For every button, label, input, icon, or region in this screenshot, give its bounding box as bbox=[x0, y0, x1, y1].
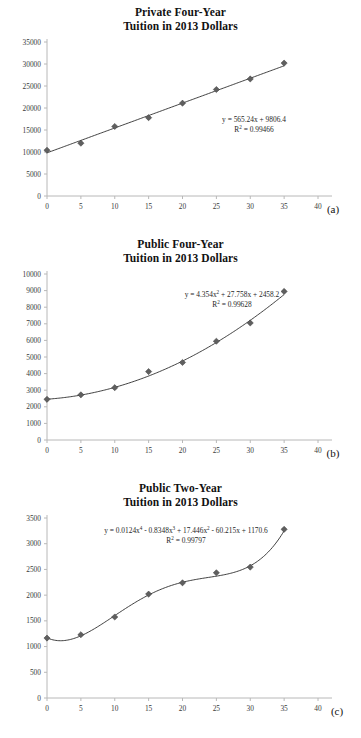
x-tick-label-b-8: 40 bbox=[314, 446, 322, 455]
y-tick-label-c-2: 1000 bbox=[26, 642, 41, 651]
y-tick-label-c-1: 500 bbox=[30, 668, 41, 677]
plot-area-b: 0100020003000400050006000700080009000100… bbox=[0, 265, 361, 473]
chart-title-b: Public Four-Year Tuition in 2013 Dollars bbox=[0, 232, 361, 265]
data-point-a-6 bbox=[247, 76, 253, 82]
y-tick-label-a-0: 0 bbox=[37, 192, 41, 201]
x-tick-label-c-7: 35 bbox=[280, 704, 288, 713]
y-tick-label-a-3: 15000 bbox=[23, 126, 42, 135]
x-tick-label-b-0: 0 bbox=[45, 446, 49, 455]
x-tick-label-a-6: 30 bbox=[247, 202, 255, 211]
y-tick-label-b-5: 5000 bbox=[26, 353, 41, 362]
y-tick-label-b-0: 0 bbox=[37, 436, 41, 445]
y-tick-label-c-3: 1500 bbox=[26, 616, 41, 625]
x-tick-label-b-4: 20 bbox=[179, 446, 187, 455]
r-squared-label-c: R2 = 0.99797 bbox=[166, 535, 206, 545]
data-point-a-3 bbox=[146, 115, 152, 121]
x-tick-label-c-8: 40 bbox=[314, 704, 322, 713]
x-tick-label-a-4: 20 bbox=[179, 202, 187, 211]
data-point-c-5 bbox=[213, 570, 219, 576]
x-tick-label-c-2: 10 bbox=[111, 704, 119, 713]
plot-area-a: 0500010000150002000025000300003500005101… bbox=[0, 33, 361, 229]
y-tick-label-b-2: 2000 bbox=[26, 402, 41, 411]
chart-title-c: Public Two-Year Tuition in 2013 Dollars bbox=[0, 476, 361, 509]
chart-title-a: Private Four-Year Tuition in 2013 Dollar… bbox=[0, 0, 361, 33]
x-tick-label-b-1: 5 bbox=[79, 446, 83, 455]
x-tick-label-b-3: 15 bbox=[145, 446, 153, 455]
x-tick-label-b-6: 30 bbox=[247, 446, 255, 455]
y-tick-label-a-4: 20000 bbox=[23, 104, 42, 113]
chart-title-b-line2: Tuition in 2013 Dollars bbox=[0, 252, 361, 266]
y-tick-label-b-1: 1000 bbox=[26, 419, 41, 428]
y-tick-label-c-6: 3000 bbox=[26, 539, 41, 548]
data-point-b-2 bbox=[112, 385, 118, 391]
chart-title-c-line2: Tuition in 2013 Dollars bbox=[0, 496, 361, 510]
y-tick-label-c-4: 2000 bbox=[26, 591, 41, 600]
data-point-a-7 bbox=[281, 60, 287, 66]
y-tick-label-a-5: 25000 bbox=[23, 82, 42, 91]
data-point-b-1 bbox=[78, 392, 84, 398]
y-tick-label-b-9: 9000 bbox=[26, 286, 41, 295]
x-tick-label-c-4: 20 bbox=[179, 704, 187, 713]
data-point-a-4 bbox=[179, 100, 185, 106]
x-tick-label-a-1: 5 bbox=[79, 202, 83, 211]
data-point-c-7 bbox=[281, 526, 287, 532]
data-point-c-0 bbox=[44, 635, 50, 641]
chart-title-b-line1: Public Four-Year bbox=[0, 238, 361, 252]
plot-area-c: 0500100015002000250030003500051015202530… bbox=[0, 509, 361, 731]
panel-letter-b: (b) bbox=[327, 447, 340, 460]
y-tick-label-b-10: 10000 bbox=[23, 270, 42, 279]
chart-panel-a: Private Four-Year Tuition in 2013 Dollar… bbox=[0, 0, 361, 238]
x-tick-label-c-3: 15 bbox=[145, 704, 153, 713]
y-tick-label-a-2: 10000 bbox=[23, 148, 42, 157]
chart-title-a-line1: Private Four-Year bbox=[0, 6, 361, 20]
y-tick-label-b-6: 6000 bbox=[26, 336, 41, 345]
x-tick-label-b-5: 25 bbox=[213, 446, 221, 455]
x-tick-label-a-2: 10 bbox=[111, 202, 119, 211]
x-tick-label-c-0: 0 bbox=[45, 704, 49, 713]
chart-panel-b: Public Four-Year Tuition in 2013 Dollars… bbox=[0, 232, 361, 480]
data-point-b-7 bbox=[281, 288, 287, 294]
x-tick-label-c-5: 25 bbox=[213, 704, 221, 713]
data-point-b-3 bbox=[146, 369, 152, 375]
y-tick-label-a-1: 5000 bbox=[26, 170, 41, 179]
y-tick-label-a-7: 35000 bbox=[23, 38, 42, 47]
trendline-b bbox=[47, 295, 284, 400]
r-squared-label-b: R2 = 0.99628 bbox=[212, 299, 252, 309]
r-squared-label-a: R2 = 0.99466 bbox=[234, 124, 274, 134]
x-tick-label-a-5: 25 bbox=[213, 202, 221, 211]
data-point-b-6 bbox=[247, 320, 253, 326]
x-tick-label-c-1: 5 bbox=[79, 704, 83, 713]
data-point-b-0 bbox=[44, 396, 50, 402]
x-tick-label-b-7: 35 bbox=[280, 446, 288, 455]
y-tick-label-b-8: 8000 bbox=[26, 303, 41, 312]
equation-label-b: y = 4.354x2 + 27.758x + 2458.2 bbox=[185, 289, 280, 299]
x-tick-label-a-3: 15 bbox=[145, 202, 153, 211]
panel-letter-c: (c) bbox=[331, 705, 344, 718]
y-tick-label-c-7: 3500 bbox=[26, 514, 41, 523]
x-tick-label-c-6: 30 bbox=[247, 704, 255, 713]
trendline-c bbox=[47, 531, 284, 641]
chart-title-c-line1: Public Two-Year bbox=[0, 482, 361, 496]
x-tick-label-a-8: 40 bbox=[314, 202, 322, 211]
y-tick-label-a-6: 30000 bbox=[23, 60, 42, 69]
y-tick-label-c-5: 2500 bbox=[26, 565, 41, 574]
chart-title-a-line2: Tuition in 2013 Dollars bbox=[0, 20, 361, 34]
y-tick-label-c-0: 0 bbox=[37, 694, 41, 703]
equation-label-a: y = 565.24x + 9806.4 bbox=[222, 115, 286, 124]
panel-letter-a: (a) bbox=[327, 203, 340, 216]
y-tick-label-b-3: 3000 bbox=[26, 386, 41, 395]
chart-panel-c: Public Two-Year Tuition in 2013 Dollars … bbox=[0, 476, 361, 738]
data-point-c-4 bbox=[179, 580, 185, 586]
equation-label-c: y = 0.0124x4 - 0.8348x3 + 17.446x2 - 60.… bbox=[104, 525, 268, 535]
x-tick-label-b-2: 10 bbox=[111, 446, 119, 455]
y-tick-label-b-7: 7000 bbox=[26, 319, 41, 328]
x-tick-label-a-0: 0 bbox=[45, 202, 49, 211]
data-point-c-2 bbox=[112, 614, 118, 620]
y-tick-label-b-4: 4000 bbox=[26, 369, 41, 378]
x-tick-label-a-7: 35 bbox=[280, 202, 288, 211]
